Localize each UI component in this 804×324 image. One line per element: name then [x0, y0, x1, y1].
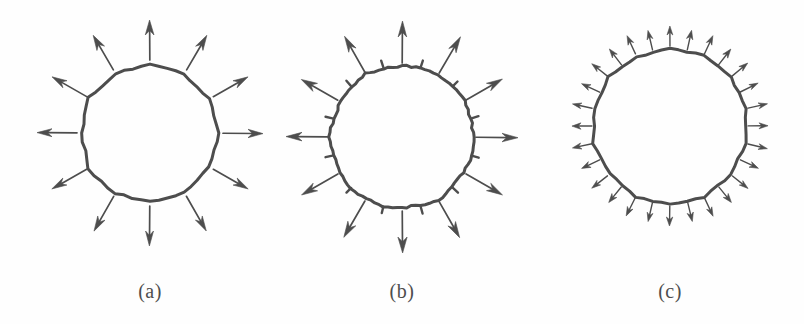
- panel-label-c: (c): [658, 280, 682, 303]
- panel-b-diagram: [286, 21, 518, 253]
- panel-a-diagram: [37, 20, 263, 246]
- panel-label-a: (a): [138, 280, 162, 303]
- normal-ticks-b: [326, 61, 479, 214]
- normal-arrows-b: [286, 21, 518, 253]
- contour-polygon-a: [82, 64, 219, 201]
- normal-arrows-a: [37, 20, 263, 246]
- panel-label-b: (b): [390, 280, 415, 303]
- panel-c-diagram: [572, 26, 768, 226]
- normals-figure-canvas: [0, 0, 804, 324]
- figure-root: (a) (b) (c): [0, 0, 804, 324]
- contour-polygon-c: [593, 48, 746, 204]
- normal-arrows-c: [572, 26, 768, 226]
